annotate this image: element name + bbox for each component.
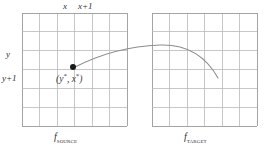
paren-close: ) bbox=[79, 74, 82, 84]
point-coordinate-label: (y*, x*) bbox=[56, 72, 83, 84]
caption-f-source: fsource bbox=[54, 131, 77, 145]
caption-f-target: ftarget bbox=[184, 131, 207, 145]
axis-label-x-plus-1: x+1 bbox=[78, 2, 93, 11]
caption-source-subscript: source bbox=[57, 137, 77, 145]
axis-label-y-plus-1: y+1 bbox=[2, 74, 17, 83]
grid-layer bbox=[0, 0, 264, 152]
axis-label-y: y bbox=[6, 50, 10, 59]
warping-diagram: x x+1 y y+1 (y*, x*) fsource ftarget bbox=[0, 0, 264, 152]
target-grid bbox=[152, 13, 257, 126]
source-point-marker bbox=[70, 64, 76, 70]
caption-target-subscript: target bbox=[187, 137, 207, 145]
axis-label-x: x bbox=[63, 2, 67, 11]
